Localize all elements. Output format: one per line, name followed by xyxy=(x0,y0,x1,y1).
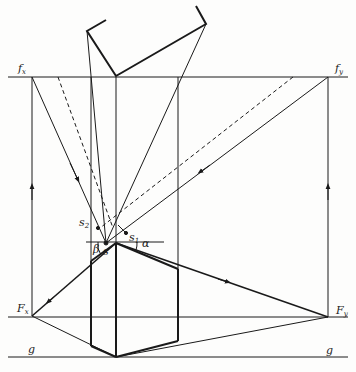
diagram-lines xyxy=(0,0,356,372)
label-alpha: α xyxy=(142,238,149,249)
label-Fx: Fx xyxy=(17,303,29,316)
building-right-bottom xyxy=(116,317,328,357)
perspective-diagram: fx fy Fx Fy s s1 s2 g g α β xyxy=(0,0,356,372)
label-Fy: Fy xyxy=(336,305,348,318)
label-g-right: g xyxy=(326,345,333,356)
label-s: s xyxy=(103,246,109,257)
label-fx: fx xyxy=(18,63,26,76)
label-fy: fy xyxy=(335,63,343,76)
label-beta: β xyxy=(93,244,99,255)
label-s2: s2 xyxy=(79,217,89,230)
label-g-left: g xyxy=(28,344,35,355)
plan-outline xyxy=(87,6,206,76)
label-s1: s1 xyxy=(129,232,139,245)
